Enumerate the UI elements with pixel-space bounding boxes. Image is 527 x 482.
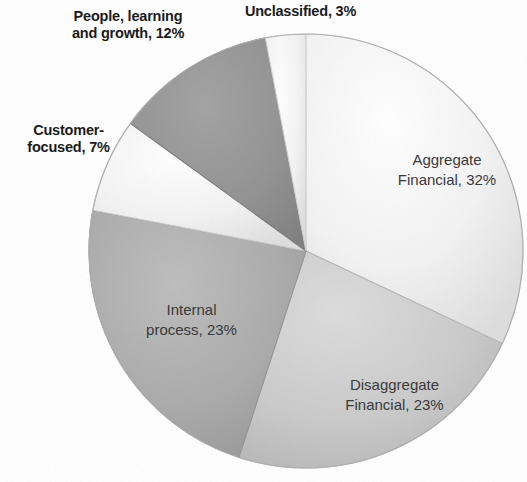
pie-chart: People, learning and growth, 12% Unclass… [0, 0, 527, 482]
slice-label-aggregate-financial: Aggregate Financial, 32% [372, 150, 522, 189]
slice-label-disaggregate-financial: Disaggregate Financial, 23% [312, 375, 477, 414]
slice-label-people-learning-and-growth: People, learning and growth, 12% [33, 8, 223, 41]
slice-label-unclassified: Unclassified, 3% [213, 3, 388, 20]
slice-label-customer-focused: Customer- focused, 7% [6, 122, 131, 155]
slice-label-internal-process: Internal process, 23% [114, 300, 269, 339]
